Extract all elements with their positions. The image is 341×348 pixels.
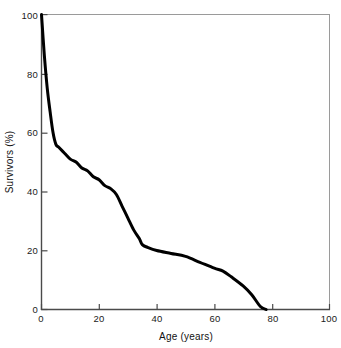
x-tick-label-80: 80 xyxy=(268,314,279,324)
y-tick-label-60: 60 xyxy=(16,128,38,138)
y-tick-label-0: 0 xyxy=(16,305,38,315)
y-tick-label-20: 20 xyxy=(16,246,38,256)
y-tick-label-100: 100 xyxy=(14,11,38,21)
x-axis-title: Age (years) xyxy=(159,332,213,342)
survivorship-curve xyxy=(42,15,267,310)
survivorship-chart-figure: 0 20 40 60 80 100 0 20 40 60 80 100 Age … xyxy=(0,0,341,348)
x-tick-label-60: 60 xyxy=(210,314,221,324)
y-axis-title: Survivors (%) xyxy=(5,131,15,194)
x-tick-label-40: 40 xyxy=(152,314,163,324)
y-tick-label-80: 80 xyxy=(16,70,38,80)
chart-canvas xyxy=(0,0,341,348)
y-tick-label-40: 40 xyxy=(16,187,38,197)
x-tick-label-0: 0 xyxy=(38,314,43,324)
axis-frame xyxy=(41,14,330,310)
x-tick-label-20: 20 xyxy=(94,314,105,324)
x-tick-label-100: 100 xyxy=(321,314,337,324)
